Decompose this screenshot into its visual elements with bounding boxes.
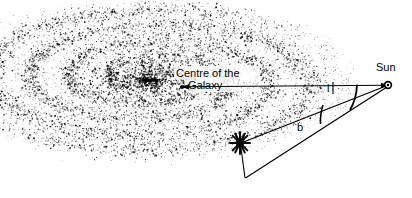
galactic-centre-label: Centre of the Galaxy [176,68,240,91]
galactic-centre-label-line1: Centre of the [176,67,240,79]
measurement-geometry-overlay [0,0,412,198]
galactic-latitude-label: b [297,122,303,134]
galactic-longitude-label: l [327,83,329,95]
latitude-angle-arc [320,105,323,124]
sun-marker-core [387,84,389,86]
galactic-coordinates-diagram: Centre of the Galaxy Sun l b [0,0,412,198]
galactic-centre-label-line2: Galaxy [176,80,240,92]
longitude-angle-arc [350,85,357,110]
star-burst-marker [230,132,250,154]
sun-label: Sun [376,62,396,74]
